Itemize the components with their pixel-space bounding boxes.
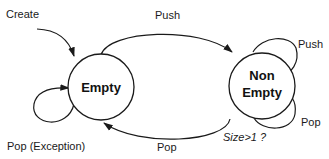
state-diagram: Create Push Pop Pop (Exception) Push Pop… xyxy=(0,0,329,159)
push-arrow-icon xyxy=(101,34,232,55)
state-non-empty-label-line1: Non xyxy=(249,68,274,83)
pop-self-label: Pop xyxy=(301,116,321,128)
create-label: Create xyxy=(6,8,39,20)
pop-transition: Pop xyxy=(104,119,230,153)
push-self-label: Push xyxy=(298,38,323,50)
guard-label: Size>1 ? xyxy=(223,131,267,143)
state-non-empty-label-line2: Empty xyxy=(242,85,283,100)
pop-label: Pop xyxy=(157,141,177,153)
state-empty: Empty xyxy=(68,54,134,120)
pop-exception-label: Pop (Exception) xyxy=(7,140,85,152)
push-label: Push xyxy=(155,9,180,21)
state-non-empty: Non Empty xyxy=(229,53,295,119)
pop-arrow-icon xyxy=(104,119,230,139)
create-arrow-icon xyxy=(37,29,74,56)
push-transition: Push xyxy=(101,9,232,55)
create-transition: Create xyxy=(6,8,74,56)
state-empty-label: Empty xyxy=(81,80,122,95)
